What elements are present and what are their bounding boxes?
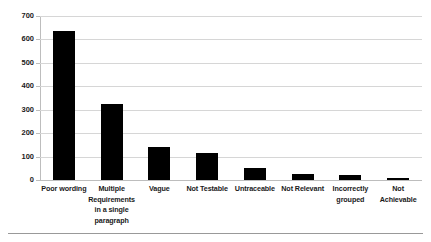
gridline-600 [40,39,422,40]
x-label-7: Incorrectlygrouped [324,184,378,205]
axis-baseline [40,180,422,181]
y-tick-label-100: 100 [2,153,34,161]
footer-divider-rule [8,233,423,234]
gridline-400 [40,86,422,87]
gridline-700 [40,16,422,17]
y-tick-label-700: 700 [2,12,34,20]
x-label-line: Achievable [371,195,425,206]
y-tick-label-600: 600 [2,35,34,43]
bar-5 [244,168,266,180]
bar-8 [387,178,409,180]
x-label-line: Incorrectly [324,184,378,195]
x-label-line: in a single [85,205,139,216]
bar-6 [292,174,314,180]
gridline-500 [40,63,422,64]
x-label-8: NotAchievable [371,184,425,205]
bar-3 [148,147,170,180]
x-label-3: Vague [133,184,187,195]
x-label-line: Not Relevant [276,184,330,195]
plot-area [40,16,422,180]
x-label-1: Poor wording [37,184,91,195]
x-label-4: Not Testable [180,184,234,195]
x-label-line: Vague [133,184,187,195]
bar-chart-figure: 0100200300400500600700 Poor wordingMulti… [0,0,431,242]
x-label-line: Untraceable [228,184,282,195]
gridline-200 [40,133,422,134]
y-tick-label-300: 300 [2,106,34,114]
x-label-line: paragraph [85,216,139,227]
x-label-5: Untraceable [228,184,282,195]
bar-4 [196,153,218,180]
y-tick-label-0: 0 [2,176,34,184]
x-label-2: MultipleRequirementsin a singleparagraph [85,184,139,226]
gridline-100 [40,157,422,158]
y-tick-label-400: 400 [2,82,34,90]
x-label-line: Not [371,184,425,195]
y-tick-label-500: 500 [2,59,34,67]
bar-2 [101,104,123,180]
x-label-line: Poor wording [37,184,91,195]
bar-1 [53,31,75,180]
x-label-line: Multiple [85,184,139,195]
y-tick-label-200: 200 [2,129,34,137]
x-label-6: Not Relevant [276,184,330,195]
x-label-line: Requirements [85,195,139,206]
x-label-line: grouped [324,195,378,206]
gridline-300 [40,110,422,111]
bar-7 [339,175,361,180]
x-label-line: Not Testable [180,184,234,195]
